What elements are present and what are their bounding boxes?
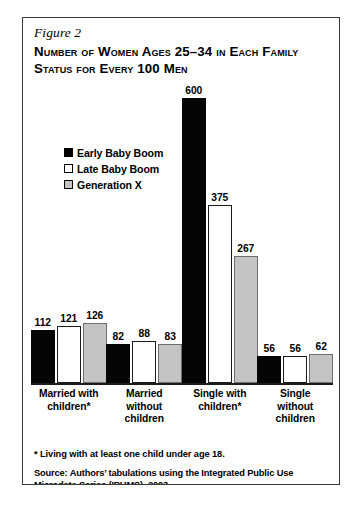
bar-value-label: 83 <box>165 331 176 342</box>
chart-title: Number of Women Ages 25–34 in Each Famil… <box>34 44 330 77</box>
bar <box>234 256 258 383</box>
bar-column: 82 <box>106 98 130 383</box>
category-label-line: Married with <box>39 388 98 399</box>
bar <box>158 344 182 383</box>
bar-column: 56 <box>283 98 307 383</box>
bar-column: 88 <box>132 98 156 383</box>
category-label: Married withchildren* <box>31 388 107 413</box>
bar <box>83 323 107 383</box>
bar-value-label: 88 <box>139 328 150 339</box>
bar-group: 565662 <box>257 98 333 383</box>
bar-value-label: 56 <box>290 343 301 354</box>
bar-value-label: 62 <box>316 341 327 352</box>
x-axis-category-labels: Married withchildren*Marriedwithoutchild… <box>31 388 333 444</box>
bar-value-label: 126 <box>86 310 103 321</box>
bar-column: 56 <box>257 98 281 383</box>
category-label-line: Single <box>280 388 310 399</box>
category-label: Singlewithoutchildren <box>258 388 334 426</box>
bar-value-label: 267 <box>237 243 254 254</box>
category-label-line: children* <box>47 401 90 412</box>
bar-column: 600 <box>182 98 206 383</box>
bar <box>182 98 206 383</box>
bar-column: 375 <box>208 98 232 383</box>
bar <box>283 356 307 383</box>
source-text: Source: Authors’ tabulations using the I… <box>34 468 329 485</box>
category-label-line: Married <box>126 388 163 399</box>
footnote-text: * Living with at least one child under a… <box>34 448 329 460</box>
bar <box>31 330 55 383</box>
bar-value-label: 600 <box>185 85 202 96</box>
category-label-line: children <box>125 413 164 424</box>
plot-area: 112121126828883600375267565662 <box>31 98 333 383</box>
bar <box>106 344 130 383</box>
bar-value-label: 375 <box>211 192 228 203</box>
bar <box>309 354 333 383</box>
bar-column: 62 <box>309 98 333 383</box>
category-label-line: children <box>276 413 315 424</box>
bar-column: 126 <box>83 98 107 383</box>
bar-group: 600375267 <box>182 98 258 383</box>
bar-group: 828883 <box>106 98 182 383</box>
bar <box>132 341 156 383</box>
x-axis-line <box>31 383 333 385</box>
category-label: Single withchildren* <box>182 388 258 413</box>
bar-value-label: 112 <box>35 317 51 328</box>
figure-container: Figure 2 Number of Women Ages 25–34 in E… <box>22 17 340 485</box>
bar-group: 112121126 <box>31 98 107 383</box>
category-label-line: without <box>277 401 313 412</box>
bar <box>57 326 81 383</box>
figure-number: Figure 2 <box>34 25 81 41</box>
bar-value-label: 56 <box>264 343 275 354</box>
bar-column: 112 <box>31 98 55 383</box>
bar-value-label: 82 <box>113 331 124 342</box>
category-label-line: without <box>126 401 162 412</box>
category-label: Marriedwithoutchildren <box>107 388 183 426</box>
bar-column: 267 <box>234 98 258 383</box>
bar <box>208 205 232 383</box>
bar <box>257 356 281 383</box>
bar-column: 121 <box>57 98 81 383</box>
chart-notes: * Living with at least one child under a… <box>34 448 329 485</box>
category-label-line: children* <box>198 401 241 412</box>
category-label-line: Single with <box>193 388 246 399</box>
bar-value-label: 121 <box>60 313 77 324</box>
bar-column: 83 <box>158 98 182 383</box>
